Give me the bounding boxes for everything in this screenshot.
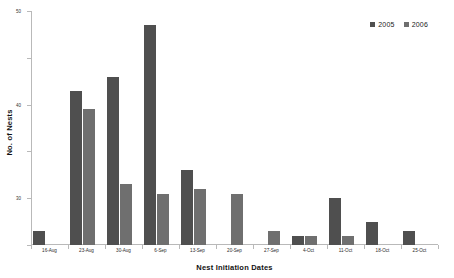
bar-group <box>142 11 179 245</box>
bar-2005-13-Sep <box>181 170 193 245</box>
bar-2006-23-Aug <box>83 109 95 245</box>
bar-group <box>364 11 401 245</box>
bar-2005-11-Oct <box>329 198 341 245</box>
bar-2006-6-Sep <box>157 194 169 245</box>
bar-2005-30-Aug <box>107 77 119 245</box>
x-axis-label-23-Aug: 23-Aug <box>79 248 94 253</box>
bar-2006-30-Aug <box>120 184 132 245</box>
bar-group <box>68 11 105 245</box>
x-axis-label-13-Sep: 13-Sep <box>190 248 205 253</box>
y-axis-title: No. of Nests <box>5 98 14 168</box>
bar-2006-20-Sep <box>231 194 243 245</box>
bar-2005-18-Oct <box>366 222 378 245</box>
bar-2006-4-Oct <box>305 236 317 245</box>
x-tick-11 <box>438 245 439 249</box>
bar-group <box>31 11 68 245</box>
x-axis-label-20-Sep: 20-Sep <box>227 248 242 253</box>
bar-group <box>179 11 216 245</box>
bar-group <box>401 11 438 245</box>
plot-area: 01020304050 <box>31 11 438 245</box>
bar-2005-4-Oct <box>292 236 304 245</box>
bar-2005-25-Oct <box>403 231 415 245</box>
bar-2005-23-Aug <box>70 91 82 245</box>
bar-group <box>253 11 290 245</box>
bar-group <box>105 11 142 245</box>
y-tick-label-50: 50 <box>16 9 21 14</box>
bar-groups <box>31 11 438 245</box>
y-tick-label-40: 40 <box>16 102 21 107</box>
x-axis-label-11-Oct: 11-Oct <box>339 248 352 253</box>
bar-group <box>290 11 327 245</box>
bar-group <box>216 11 253 245</box>
bar-chart: 2005 2006 01020304050 16-Aug23-Aug30-Aug… <box>0 0 454 278</box>
bar-group <box>327 11 364 245</box>
x-axis-labels: 16-Aug23-Aug30-Aug6-Sep13-Sep20-Sep27-Se… <box>31 248 438 260</box>
x-axis-label-30-Aug: 30-Aug <box>116 248 131 253</box>
bar-2006-27-Sep <box>268 231 280 245</box>
bar-2005-16-Aug <box>33 231 45 245</box>
bar-2005-6-Sep <box>144 25 156 245</box>
x-axis-label-25-Oct: 25-Oct <box>413 248 427 253</box>
x-axis-label-27-Sep: 27-Sep <box>264 248 279 253</box>
bar-2006-11-Oct <box>342 236 354 245</box>
x-axis-label-6-Sep: 6-Sep <box>154 248 166 253</box>
bar-2006-13-Sep <box>194 189 206 245</box>
x-axis-title: Nest Initiation Dates <box>31 263 438 272</box>
x-axis-label-18-Oct: 18-Oct <box>376 248 390 253</box>
y-tick-label-30: 30 <box>16 196 21 201</box>
x-axis-label-16-Aug: 16-Aug <box>42 248 57 253</box>
x-axis-label-4-Oct: 4-Oct <box>303 248 314 253</box>
